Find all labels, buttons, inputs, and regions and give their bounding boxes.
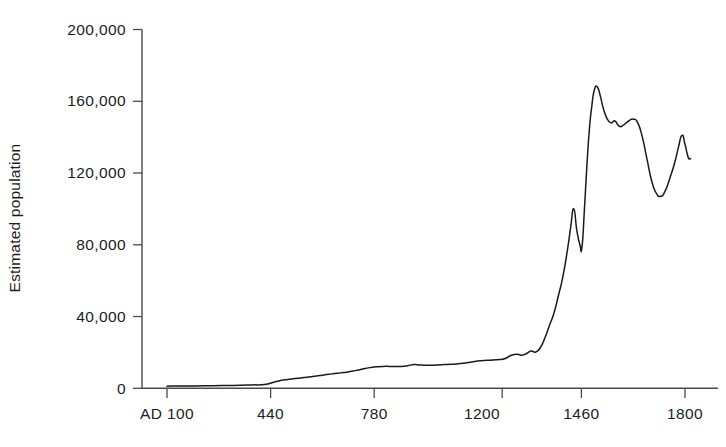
y-tick-label-160000: 160,000 xyxy=(67,92,126,109)
y-tick-label-0: 0 xyxy=(117,380,126,397)
x-tick-label-ad100: AD 100 xyxy=(140,405,194,422)
y-tick-label-120000: 120,000 xyxy=(67,164,126,181)
x-tick-label-440: 440 xyxy=(257,405,284,422)
x-tick-label-1460: 1460 xyxy=(563,405,599,422)
x-tick-label-1800: 1800 xyxy=(667,405,703,422)
x-tick-label-780: 780 xyxy=(361,405,388,422)
population-line-chart: Estimated population 200,000 160,000 120… xyxy=(0,0,726,447)
y-tick-label-40000: 40,000 xyxy=(76,308,126,325)
y-tick-label-200000: 200,000 xyxy=(67,21,126,38)
y-tick-label-80000: 80,000 xyxy=(76,236,126,253)
chart-background xyxy=(0,0,726,447)
x-tick-label-1200: 1200 xyxy=(464,405,500,422)
chart-container: Estimated population 200,000 160,000 120… xyxy=(0,0,726,447)
y-axis-title: Estimated population xyxy=(6,144,23,293)
